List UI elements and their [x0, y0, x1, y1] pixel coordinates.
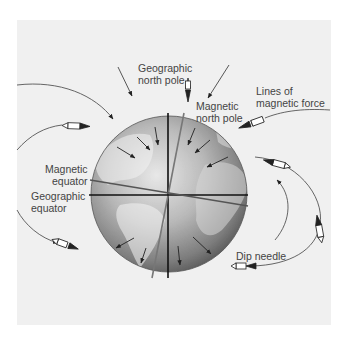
label-magnetic-equator: Magnetic equator	[45, 163, 88, 187]
label-lines-of-magnetic-force: Lines of magnetic force	[256, 85, 325, 109]
label-dip-needle: Dip needle	[236, 250, 286, 262]
globe-icon	[91, 116, 248, 272]
label-geographic-equator: Geographic equator	[31, 190, 85, 214]
label-geographic-north-pole: Geographic north pole	[138, 62, 192, 86]
label-magnetic-north-pole: Magnetic north pole	[196, 100, 243, 124]
